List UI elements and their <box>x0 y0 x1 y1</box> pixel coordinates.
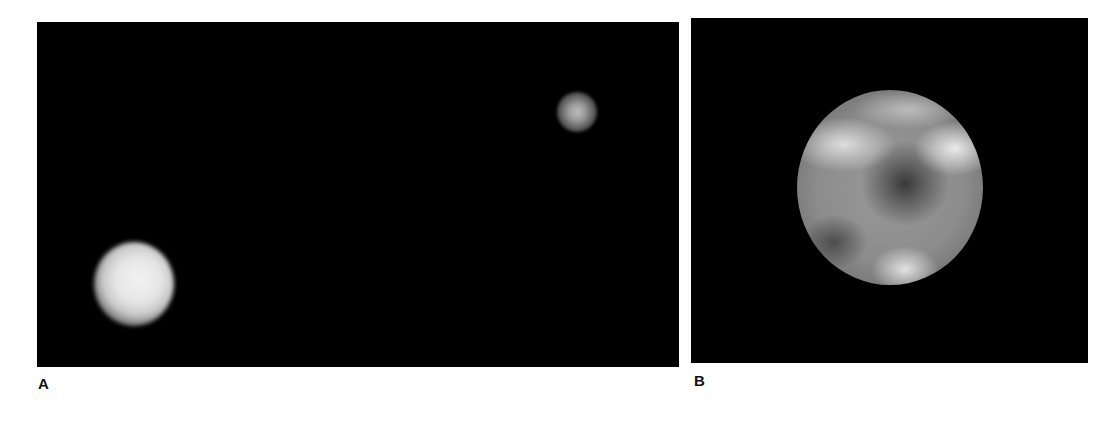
small-blurred-object <box>557 92 597 132</box>
mottled-sphere <box>797 90 983 285</box>
panel-a-label: A <box>38 375 49 392</box>
panel-b-image <box>691 18 1088 363</box>
panel-a-image <box>37 22 679 367</box>
panel-b-label: B <box>694 372 705 389</box>
large-blurred-object <box>94 242 174 326</box>
